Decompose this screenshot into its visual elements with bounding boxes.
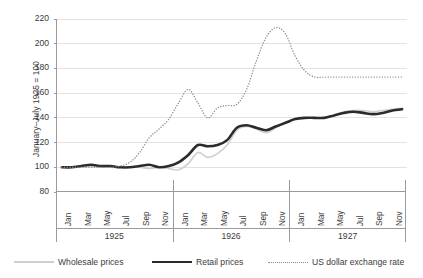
series-line (62, 108, 402, 170)
legend-item: Retail prices (152, 257, 243, 267)
x-axis-tick-label: Nov (395, 211, 404, 226)
chart-figure: January–July 1925 = 100 8010012014016018… (0, 0, 423, 278)
y-axis-tick-label: 180 (25, 62, 49, 72)
x-axis-month-labels: JanMarMayJulSepNovJanMarMayJulSepNovJanM… (56, 194, 406, 228)
x-axis-tick-label: Mar (84, 212, 93, 226)
x-axis-tick-label: May (336, 211, 345, 226)
x-axis-tick-label: Sep (375, 211, 384, 226)
x-axis-tick-label: Sep (259, 211, 268, 226)
x-axis-year-band: 192519261927 (56, 228, 406, 247)
x-axis-tick-label: Nov (161, 211, 170, 226)
x-axis-tick-label: Nov (278, 211, 287, 226)
x-axis-tick-label: May (103, 211, 112, 226)
legend-item: Wholesale prices (14, 257, 123, 267)
line-swatch-solid-gray (14, 258, 54, 267)
x-axis-tick-label: May (220, 211, 229, 226)
year-label: 1925 (56, 231, 173, 241)
legend-item: US dollar exchange rate (268, 257, 404, 267)
legend-item-label: US dollar exchange rate (312, 257, 404, 267)
y-axis-tick-label: 200 (25, 38, 49, 48)
legend-item-label: Wholesale prices (58, 257, 123, 267)
year-band-edge (405, 180, 406, 242)
year-band-edge (56, 180, 57, 242)
plot-area (56, 19, 406, 192)
year-label: 1927 (289, 231, 406, 241)
line-swatch-dotted (268, 258, 308, 267)
chart-legend: Wholesale pricesRetail pricesUS dollar e… (0, 253, 423, 275)
series-line (62, 28, 402, 168)
y-axis-tick-label: 120 (25, 137, 49, 147)
x-axis-tick-label: Jul (239, 216, 248, 226)
y-axis-tick-label: 100 (25, 161, 49, 171)
plot-svg (57, 19, 407, 192)
x-axis-tick-label: Sep (142, 211, 151, 226)
x-axis-tick-label: Jul (122, 216, 131, 226)
legend-item-label: Retail prices (196, 257, 243, 267)
y-axis-tick-label: 160 (25, 87, 49, 97)
x-axis-tick-label: Jan (64, 213, 73, 226)
x-axis-tick-label: Mar (317, 212, 326, 226)
year-band-top-rule (56, 228, 406, 229)
x-axis-tick-label: Jul (356, 216, 365, 226)
year-label: 1926 (173, 231, 290, 241)
y-axis-tick-label: 80 (25, 186, 49, 196)
line-swatch-solid-black (152, 258, 192, 267)
x-axis-tick-label: Jan (297, 213, 306, 226)
x-axis-tick-label: Jan (181, 213, 190, 226)
y-axis-tick-label: 220 (25, 13, 49, 23)
x-axis-tick-label: Mar (200, 212, 209, 226)
y-axis-tick-label: 140 (25, 112, 49, 122)
